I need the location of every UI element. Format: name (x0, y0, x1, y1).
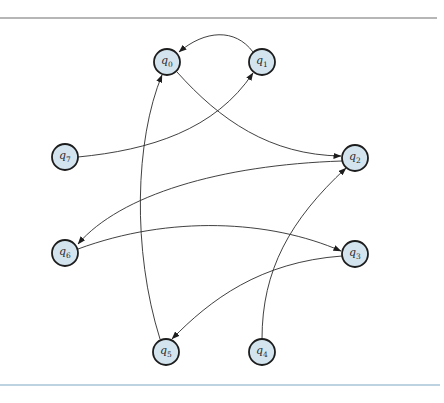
state-node-q7: q7 (52, 144, 78, 170)
state-node-q6: q6 (52, 240, 78, 266)
edge-q4-q2 (262, 168, 346, 339)
edge-q5-q0 (140, 75, 162, 339)
edge-q0-q2 (177, 72, 341, 156)
state-node-q4: q4 (249, 339, 275, 365)
state-node-q3: q3 (342, 241, 368, 267)
edge-q6-q3 (78, 226, 341, 251)
nodes: q0q1q2q3q4q5q6q7 (52, 49, 368, 365)
state-node-q0: q0 (154, 49, 180, 75)
edge-q2-q6 (78, 161, 342, 244)
state-node-q5: q5 (153, 339, 179, 365)
edge-q1-q0 (179, 35, 253, 52)
state-node-q1: q1 (249, 49, 275, 75)
state-diagram: q0q1q2q3q4q5q6q7 (0, 0, 444, 403)
edges (78, 35, 346, 339)
state-node-q2: q2 (342, 145, 368, 171)
edge-q7-q1 (78, 73, 253, 157)
edge-q3-q5 (172, 256, 342, 339)
